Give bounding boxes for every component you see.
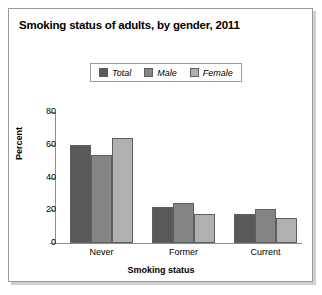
- bar-female-never[interactable]: [112, 138, 133, 243]
- x-axis-title: Smoking status: [0, 265, 322, 275]
- x-tick-label-never: Never: [70, 247, 133, 257]
- y-tick-80: 80: [0, 112, 56, 113]
- bar-total-current[interactable]: [234, 214, 255, 243]
- x-tick-label-current: Current: [234, 247, 297, 257]
- y-tick-label: 20: [10, 204, 56, 214]
- chart-figure: Smoking status of adults, by gender, 201…: [0, 0, 322, 295]
- bar-female-current[interactable]: [276, 218, 297, 243]
- bar-group-never: [70, 112, 133, 243]
- y-tick-label: 0: [10, 237, 56, 247]
- y-tick-label: 80: [10, 106, 56, 116]
- bar-series-layer: [56, 112, 302, 243]
- bar-group-former: [152, 112, 215, 243]
- plot-area: Percent 020406080 NeverFormerCurrent Smo…: [0, 0, 322, 295]
- y-tick-label: 40: [10, 172, 56, 182]
- x-tick-label-former: Former: [152, 247, 215, 257]
- bar-male-current[interactable]: [255, 209, 276, 243]
- bar-female-former[interactable]: [194, 214, 215, 243]
- y-tick-0: 0: [0, 243, 56, 244]
- y-tick-60: 60: [0, 145, 56, 146]
- y-tick-label: 60: [10, 139, 56, 149]
- y-tick-20: 20: [0, 210, 56, 211]
- bar-male-never[interactable]: [91, 155, 112, 243]
- bar-total-never[interactable]: [70, 145, 91, 243]
- y-tick-40: 40: [0, 178, 56, 179]
- bar-group-current: [234, 112, 297, 243]
- bar-total-former[interactable]: [152, 207, 173, 243]
- bar-male-former[interactable]: [173, 203, 194, 243]
- x-axis-line: [55, 243, 302, 244]
